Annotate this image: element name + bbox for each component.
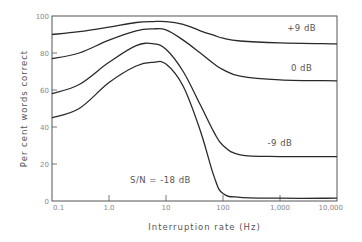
y-tick-label: 80: [40, 50, 49, 58]
y-axis-title: Per cent words correct: [19, 50, 29, 167]
x-tick-label: 1.0: [103, 204, 114, 212]
y-tick-label: 0: [45, 198, 49, 206]
series-line-2: [52, 43, 337, 157]
series-line-3: [52, 61, 337, 198]
series-label-1: 0 dB: [291, 63, 312, 73]
x-tick-label: 1,000: [270, 204, 290, 212]
x-axis-title: Interruption rate (Hz): [148, 222, 261, 232]
y-tick-label: 20: [40, 161, 49, 169]
x-tick-label: 100: [216, 204, 229, 212]
x-tick-label: 0.1: [53, 204, 64, 212]
x-tick-label: 10,000: [319, 204, 344, 212]
y-tick-label: 40: [40, 124, 49, 132]
y-tick-label: 100: [36, 13, 49, 21]
series-label-3: S/N = -18 dB: [130, 175, 191, 185]
chart: 0204060801000.11.0101001,00010,000 Inter…: [0, 0, 362, 242]
curves: [52, 21, 337, 198]
series-label-2: -9 dB: [268, 138, 293, 148]
x-tick-label: 10: [162, 204, 171, 212]
series-label-0: +9 dB: [287, 23, 316, 33]
y-tick-label: 60: [40, 87, 49, 95]
